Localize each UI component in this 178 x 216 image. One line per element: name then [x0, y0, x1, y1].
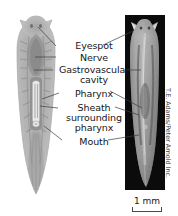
label-mouth: Mouth	[57, 137, 131, 147]
scale-bar-label: 1 mm	[125, 196, 169, 206]
label-gastrovascular-cavity: Gastrovascular cavity	[53, 65, 135, 85]
right-specimen-image	[125, 15, 165, 190]
label-eyespot: Eyespot	[57, 41, 131, 51]
left-specimen-image	[12, 14, 60, 196]
right-specimen-panel	[125, 15, 165, 190]
label-pharynx: Pharynx	[57, 89, 131, 99]
label-sheath-surrounding-pharynx: Sheath surrounding pharynx	[57, 103, 131, 134]
photo-credit: T.E. Adams/Peter Arnold Inc.	[164, 88, 171, 188]
scale-bar: 1 mm	[125, 196, 169, 212]
planarian-anatomy-figure: Eyespot Nerve Gastrovascular cavity Phar…	[0, 0, 178, 216]
label-sheath-line3: pharynx	[57, 123, 131, 133]
label-nerve: Nerve	[57, 53, 131, 63]
scale-bar-bracket	[132, 207, 162, 212]
label-gastrovascular-cavity-line2: cavity	[53, 75, 135, 85]
